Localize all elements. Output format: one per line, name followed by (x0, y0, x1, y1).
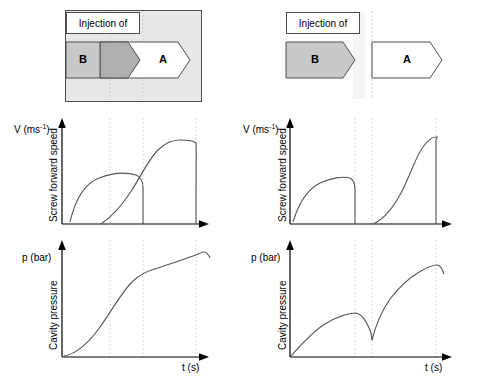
left-velocity-ylabel-unit: V (ms (14, 124, 40, 135)
right-velocity-ydesc: Screw forward speed (277, 128, 288, 222)
curve-right-pressure-first (291, 313, 372, 356)
curve-left-velocity-a (101, 140, 196, 224)
mould-right-label-b: B (311, 54, 319, 65)
left-pressure-ylabel: p (bar) (22, 253, 51, 263)
left-pressure-ydesc: Cavity pressure (48, 281, 59, 350)
curve-right-pressure-second (372, 265, 444, 340)
injection-label-text-right: Injection of (299, 18, 347, 29)
right-velocity-ylabel: V (ms-1) (243, 123, 279, 135)
injection-label-text-left: Injection of (79, 18, 127, 29)
right-pressure-ydesc: Cavity pressure (277, 281, 288, 350)
chart-left-pressure (58, 240, 210, 361)
right-velocity-ylabel-unit: V (ms (243, 124, 269, 135)
left-pressure-xlabel: t (s) (182, 363, 199, 373)
mould-left-label-a: A (159, 54, 167, 65)
chart-left-velocity (58, 118, 209, 228)
right-pressure-ylabel: p (bar) (251, 253, 280, 263)
right-pressure-xlabel: t (s) (425, 363, 442, 373)
curve-left-pressure (64, 252, 210, 356)
mould-right-label-a: A (403, 54, 411, 65)
left-velocity-ylabel: V (ms-1) (14, 123, 50, 135)
curve-right-velocity-a (373, 137, 437, 224)
mould-left-label-b: B (79, 54, 87, 65)
chart-right-pressure (286, 240, 452, 361)
curve-left-velocity-b (70, 173, 143, 224)
chart-right-velocity (286, 118, 452, 228)
left-velocity-ydesc: Screw forward speed (48, 128, 59, 222)
curve-right-velocity-b (293, 177, 355, 224)
injection-label-box-right: Injection of (286, 12, 360, 34)
mould-right-material-b (286, 42, 355, 78)
injection-label-box-left: Injection of (66, 12, 140, 34)
